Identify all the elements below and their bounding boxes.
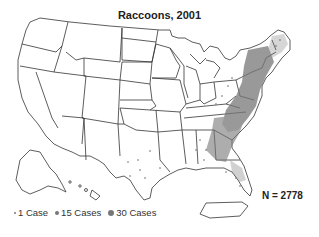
case-density-areas <box>206 34 288 182</box>
legend-item-30-cases: 30 Cases <box>108 207 156 218</box>
medium-dot-icon <box>55 211 59 215</box>
total-cases-label: N = 2778 <box>262 190 303 201</box>
alaska-outline <box>16 150 66 194</box>
legend-label: 1 Case <box>18 207 48 218</box>
large-dot-icon <box>108 210 114 216</box>
legend-item-15-cases: 15 Cases <box>55 207 101 218</box>
map-legend: 1 Case 15 Cases 30 Cases <box>14 207 159 218</box>
small-dot-icon <box>14 212 16 214</box>
puerto-rico-outline <box>200 202 248 218</box>
legend-label: 30 Cases <box>116 207 156 218</box>
us-map <box>0 0 319 237</box>
legend-label: 15 Cases <box>61 207 101 218</box>
legend-item-1-case: 1 Case <box>14 207 48 218</box>
